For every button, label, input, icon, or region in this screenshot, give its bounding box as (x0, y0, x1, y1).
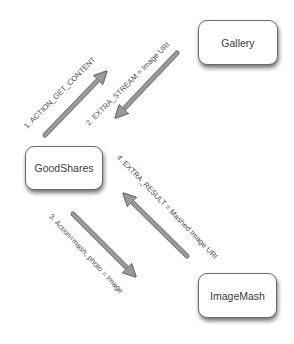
diagram-canvas: Gallery GoodShares ImageMash 1. ACTION_G… (0, 0, 294, 344)
node-gallery: Gallery (198, 20, 278, 65)
node-gallery-label: Gallery (221, 37, 254, 49)
node-imagemash: ImageMash (198, 273, 277, 318)
node-goodshares: GoodShares (25, 146, 103, 190)
arrow-4-icon (127, 197, 187, 256)
node-imagemash-label: ImageMash (210, 290, 265, 302)
node-goodshares-label: GoodShares (35, 162, 94, 174)
